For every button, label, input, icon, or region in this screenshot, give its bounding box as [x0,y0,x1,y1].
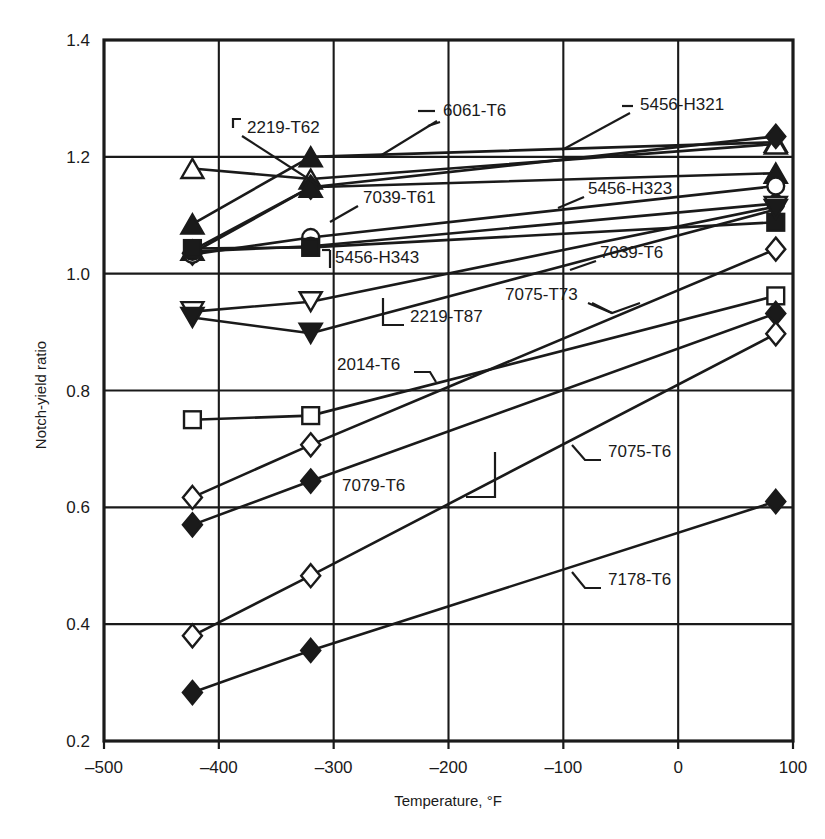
y-tick-label: 0.2 [66,732,90,751]
x-tick-label: 100 [779,758,807,777]
x-tick-label: –500 [85,758,123,777]
y-tick-label: 1.0 [66,265,90,284]
notch-yield-ratio-vs-temperature-chart: 2219-T626061-T65456-H3217039-T615456-H32… [0,0,825,839]
series-annotation-label: 5456-H323 [588,179,672,198]
x-axis-title: Temperature, °F [394,792,502,809]
x-tick-label: 0 [673,758,682,777]
series-annotation-label: 7079-T6 [342,476,405,495]
series-annotation-label: 2014-T6 [337,355,400,374]
chart-background [0,0,825,839]
series-annotation-label: 6061-T6 [443,101,506,120]
y-tick-label: 0.6 [66,498,90,517]
y-tick-label: 0.4 [66,615,90,634]
x-tick-label: –400 [200,758,238,777]
data-point-marker [302,407,319,424]
data-point-marker [184,240,201,257]
y-axis-title: Notch-yield ratio [32,341,49,449]
series-annotation-label: 7039-T6 [600,243,663,262]
x-tick-label: –200 [430,758,468,777]
x-tick-label: –300 [315,758,353,777]
series-annotation-label: 7075-T73 [505,285,578,304]
series-annotation-label: 2219-T62 [247,118,320,137]
y-tick-label: 1.4 [66,31,90,50]
chart-figure: 2219-T626061-T65456-H3217039-T615456-H32… [0,0,825,839]
series-annotation-label: 5456-H343 [335,248,419,267]
series-annotation-label: 7178-T6 [608,570,671,589]
x-tick-label: –100 [544,758,582,777]
series-annotation-label: 7039-T61 [363,188,436,207]
series-annotation-label: 7075-T6 [608,442,671,461]
data-point-marker [184,411,201,428]
series-annotation-label: 5456-H321 [640,95,724,114]
data-point-marker [767,178,784,195]
series-annotation-label: 2219-T87 [410,307,483,326]
y-tick-label: 0.8 [66,382,90,401]
y-tick-label: 1.2 [66,148,90,167]
data-point-marker [302,239,319,256]
